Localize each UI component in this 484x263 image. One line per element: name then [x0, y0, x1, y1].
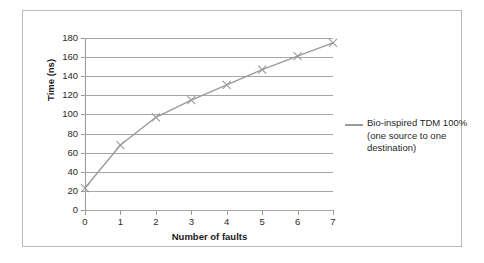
legend-label-line-3: destination): [367, 142, 475, 155]
x-axis-tick-label: 4: [217, 216, 237, 227]
y-axis-tick-label: 40: [23, 167, 78, 176]
y-axis-tick-label: 140: [23, 71, 78, 80]
x-axis-tick-label: 7: [323, 216, 343, 227]
chart-legend: Bio-inspired TDM 100% (one source to one…: [345, 117, 475, 155]
x-axis-tick: [333, 211, 334, 215]
plot-area: [85, 38, 333, 210]
gridline: [85, 210, 333, 211]
y-axis-tick-label: 100: [23, 109, 78, 118]
data-point-marker: [152, 113, 160, 121]
y-axis-tick-label: 160: [23, 52, 78, 61]
data-point-marker: [223, 81, 231, 89]
series-line-chart: [85, 38, 333, 210]
x-axis-tick-label: 6: [288, 216, 308, 227]
legend-entry-label: Bio-inspired TDM 100% (one source to one…: [367, 117, 475, 155]
y-axis-tick-label: 120: [23, 90, 78, 99]
data-point-marker: [329, 39, 337, 47]
data-point-marker: [258, 66, 266, 74]
x-axis-tick-label: 1: [110, 216, 130, 227]
x-axis-tick: [262, 211, 263, 215]
data-point-marker: [187, 96, 195, 104]
data-point-marker: [81, 184, 89, 192]
data-point-marker: [294, 52, 302, 60]
legend-label-line-1: Bio-inspired TDM 100%: [367, 117, 475, 130]
y-axis-tick-label: 80: [23, 129, 78, 138]
y-axis-tick-label: 180: [23, 33, 78, 42]
x-axis-tick: [298, 211, 299, 215]
legend-line-swatch: [345, 124, 363, 126]
data-point-marker: [116, 141, 124, 149]
x-axis-tick-label: 2: [146, 216, 166, 227]
series-line: [85, 43, 333, 188]
x-axis-tick-label: 5: [252, 216, 272, 227]
x-axis-tick-label: 3: [181, 216, 201, 227]
x-axis-tick: [191, 211, 192, 215]
x-axis-tick-label: 0: [75, 216, 95, 227]
x-axis-title: Number of faults: [85, 231, 334, 242]
y-axis-tick-label: 0: [23, 205, 78, 214]
chart-frame: Time (ns) 020406080100120140160180 01234…: [22, 10, 462, 247]
x-axis-tick: [120, 211, 121, 215]
legend-label-line-2: (one source to one: [367, 130, 475, 143]
x-axis-tick: [227, 211, 228, 215]
x-axis-tick: [85, 211, 86, 215]
y-axis-tick-label: 60: [23, 148, 78, 157]
x-axis-tick: [156, 211, 157, 215]
y-axis-tick-label: 20: [23, 186, 78, 195]
